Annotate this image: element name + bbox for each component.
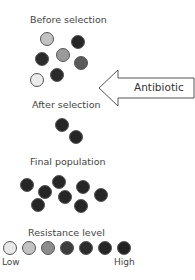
antibiotic-label: Antibiotic	[134, 81, 184, 93]
after-selection-label: After selection	[32, 99, 101, 110]
bacterium	[69, 130, 83, 144]
scale-level-3	[41, 241, 55, 255]
bacterium	[58, 190, 72, 204]
bacterium	[52, 175, 66, 189]
bacterium	[50, 68, 64, 82]
final-population-label: Final population	[30, 156, 105, 167]
bacterium	[55, 118, 69, 132]
bacterium	[74, 56, 88, 70]
bacterium	[76, 180, 90, 194]
scale-level-7	[117, 241, 131, 255]
scale-level-5	[79, 241, 93, 255]
bacterium	[94, 188, 108, 202]
scale-low-label: Low	[2, 257, 20, 267]
bacterium	[35, 52, 49, 66]
bacterium	[30, 73, 44, 87]
bacterium	[71, 35, 85, 49]
bacterium	[56, 48, 70, 62]
bacterium	[40, 32, 54, 46]
scale-level-1	[3, 241, 17, 255]
scale-level-2	[22, 241, 36, 255]
scale-level-6	[98, 241, 112, 255]
before-selection-label: Before selection	[30, 14, 107, 25]
bacterium	[31, 198, 45, 212]
resistance-level-label: Resistance level	[28, 227, 105, 238]
bacterium	[38, 185, 52, 199]
scale-high-label: High	[114, 257, 135, 267]
scale-level-4	[60, 241, 74, 255]
bacterium	[20, 178, 34, 192]
bacterium	[74, 199, 88, 213]
